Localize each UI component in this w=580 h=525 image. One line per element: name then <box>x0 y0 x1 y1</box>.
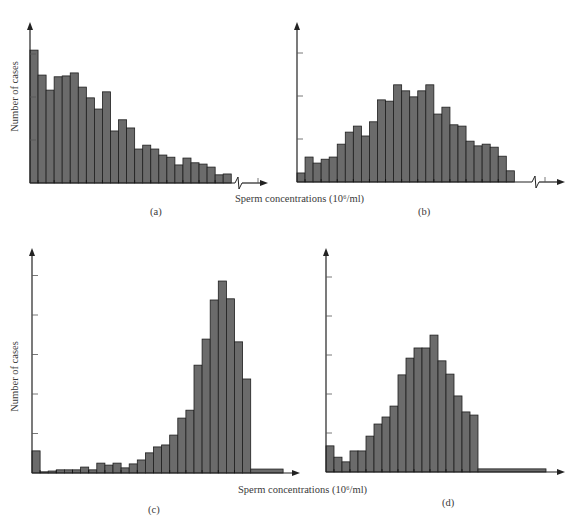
histogram-bar <box>145 453 153 473</box>
histogram-bar <box>378 100 386 182</box>
histogram-bar <box>402 91 410 182</box>
histogram-bar <box>386 101 394 182</box>
histogram-bar <box>342 462 350 472</box>
histogram-bar <box>97 463 105 473</box>
histogram-bar <box>113 463 121 473</box>
y-axis-label-a: Number of cases <box>9 57 20 137</box>
histogram-bar <box>438 361 446 472</box>
histogram-bar <box>334 457 342 472</box>
histogram-bar <box>398 375 406 472</box>
histogram-bar <box>191 163 199 183</box>
panel-caption-b: (b) <box>418 206 430 217</box>
histogram-bar <box>86 98 94 183</box>
histogram-bar <box>466 141 474 182</box>
histogram-bar <box>462 412 470 472</box>
histogram-bar <box>215 175 223 183</box>
histogram-bar <box>366 436 374 472</box>
x-axis-arrow-icon <box>557 469 565 475</box>
histogram-bar <box>446 374 454 472</box>
histogram-bar <box>329 157 337 182</box>
histogram-bar <box>350 451 358 472</box>
histogram-bar <box>207 167 215 183</box>
histogram-bar <box>127 128 135 183</box>
histogram-bar <box>194 365 202 473</box>
histogram-bar <box>442 107 450 182</box>
histogram-bar <box>178 418 186 473</box>
histogram-bar <box>223 174 231 183</box>
histogram-bar <box>226 299 234 473</box>
histogram-bar <box>382 417 390 472</box>
histogram-bar <box>305 157 313 182</box>
x-axis-label-top: Sperm concentrations (10⁶/ml) <box>235 193 364 204</box>
histogram-bar <box>406 358 414 472</box>
x-axis-label-bottom: Sperm concentrations (10⁶/ml) <box>238 484 367 495</box>
histogram-bar <box>62 76 70 183</box>
histogram-bar <box>162 445 170 473</box>
axis-break-icon <box>532 176 539 188</box>
y-axis-arrow-icon <box>27 22 33 30</box>
histogram-bar <box>143 145 151 183</box>
panel-d-histogram <box>323 248 565 475</box>
histogram-bar <box>458 126 466 182</box>
histogram-bar <box>337 144 345 182</box>
histogram-bar <box>313 163 321 182</box>
x-axis-arrow-icon <box>260 180 268 186</box>
histogram-bar <box>167 157 175 183</box>
histogram-bar <box>105 465 113 473</box>
histogram-bar <box>111 131 119 183</box>
histogram-bar <box>70 73 78 183</box>
histogram-bar <box>175 165 183 183</box>
histogram-bar <box>243 379 251 473</box>
histogram-bar <box>422 348 430 472</box>
histogram-bar <box>410 97 418 182</box>
histogram-bar <box>170 435 178 473</box>
histogram-bar <box>374 424 382 472</box>
histogram-bar <box>414 348 422 472</box>
x-axis-arrow-icon <box>557 179 565 185</box>
panel-caption-c: (c) <box>148 504 160 515</box>
histogram-bar <box>297 173 305 182</box>
histogram-bar <box>121 468 129 473</box>
histogram-bar <box>202 339 210 473</box>
histogram-bar <box>119 120 127 183</box>
histogram-bar <box>394 85 402 182</box>
panel-caption-a: (a) <box>150 206 162 217</box>
histogram-bar <box>218 281 226 473</box>
panel-a-histogram <box>27 22 268 189</box>
histogram-bar <box>54 77 62 183</box>
histogram-bar <box>450 125 458 182</box>
histogram-bar <box>470 415 478 472</box>
histogram-bar <box>482 144 490 182</box>
histogram-bar <box>474 146 482 182</box>
x-axis-arrow-icon <box>292 470 300 476</box>
panel-caption-d: (d) <box>442 497 454 508</box>
histogram-bar <box>151 149 159 183</box>
histogram-bar <box>199 164 207 183</box>
histogram-bar <box>154 447 162 473</box>
y-axis-label-c: Number of cases <box>9 337 20 417</box>
histogram-bar <box>94 109 102 183</box>
histogram-bar <box>454 396 462 472</box>
histogram-bar <box>159 155 167 183</box>
histogram-bar <box>321 159 329 182</box>
histogram-bar <box>390 406 398 472</box>
y-axis-arrow-icon <box>294 22 300 30</box>
histogram-bar <box>345 132 353 182</box>
histogram-bar <box>326 446 334 472</box>
histogram-bar <box>137 460 145 473</box>
histogram-bar <box>361 136 369 182</box>
histogram-bar <box>30 50 38 183</box>
histogram-bar <box>32 451 40 473</box>
histogram-bar <box>129 464 137 473</box>
histogram-bar <box>186 410 194 473</box>
histogram-bar <box>81 467 89 473</box>
histogram-bar <box>38 75 46 183</box>
histogram-bar <box>235 342 243 473</box>
histogram-bar <box>135 149 143 183</box>
histogram-bar <box>102 92 110 183</box>
y-axis-arrow-icon <box>323 248 329 256</box>
histogram-bar <box>430 335 438 472</box>
histogram-bar <box>210 300 218 473</box>
panel-c-histogram <box>29 248 300 476</box>
histogram-bar <box>358 451 366 472</box>
